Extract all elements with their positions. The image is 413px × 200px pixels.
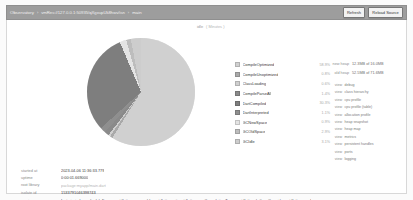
link-persistent-handles[interactable]: persistent handles (345, 142, 374, 146)
legend-swatch-icon (235, 91, 240, 96)
table-row: started at 2023-04-06 11:36:33.779 (21, 168, 411, 173)
link-cpu-profile[interactable]: cpu profile (345, 98, 362, 102)
link-key: view (329, 83, 342, 87)
observatory-isolate-page: Observatory › vmRes://127.0.0.1:50935/qX… (0, 0, 413, 200)
isolate-card: idle ( Minutes ) CompileOptimized 58.9% … (6, 20, 407, 194)
top-navbar: Observatory › vmRes://127.0.0.1:50935/qX… (6, 5, 407, 20)
link-allocation-profile[interactable]: allocation profile (345, 113, 371, 117)
link-metrics[interactable]: metrics (345, 135, 357, 139)
navbar-actions: Refresh Reload Source (343, 7, 403, 18)
legend-label: CompileParseAll (243, 91, 272, 96)
reload-source-button[interactable]: Reload Source (368, 7, 403, 18)
legend-swatch-icon (235, 101, 240, 106)
legend-item[interactable]: CompileUnoptimized 0.8% (235, 70, 330, 80)
legend-item[interactable]: GCNewSpace 0.9% (235, 118, 330, 128)
idle-summary: idle ( Minutes ) (197, 24, 224, 29)
chart-legend: CompileOptimized 58.9% CompileUnoptimize… (235, 60, 330, 146)
refresh-button[interactable]: Refresh (343, 7, 365, 18)
link-heap-snapshot[interactable]: heap snapshot (345, 120, 369, 124)
table-row: service [ext.ui.window.scheduleFrame, ex… (21, 198, 411, 200)
breadcrumb-item-main[interactable]: main (132, 10, 142, 15)
link-key: view (329, 157, 342, 161)
link-class-hierarchy[interactable]: class hierarchy (345, 90, 369, 94)
detail-value-started-at: 2023-04-06 11:36:33.779 (61, 168, 104, 173)
legend-label: DartCompiled (243, 101, 267, 106)
legend-swatch-icon (235, 81, 240, 86)
legend-swatch-icon (235, 110, 240, 115)
isolate-details-table: started at 2023-04-06 11:36:33.779 uptim… (21, 168, 411, 200)
idle-label: idle (197, 24, 203, 29)
link-ports[interactable]: ports (345, 150, 353, 154)
link-key: view (329, 142, 342, 146)
link-row[interactable]: view cpu profile (table) (329, 105, 413, 112)
stat-row: new heap 12.3MB of 16.0MB (329, 62, 413, 71)
link-row[interactable]: view class hierarchy (329, 90, 413, 97)
pie-chart[interactable] (87, 38, 195, 146)
legend-label: GCIdle (243, 139, 255, 144)
link-row[interactable]: view persistent handles (329, 142, 413, 149)
table-row: uptime 0:00:01.669000 (21, 175, 411, 180)
legend-item[interactable]: CompileOptimized 58.9% (235, 60, 330, 70)
link-key: view (329, 113, 342, 117)
legend-label: CompileUnoptimized (243, 72, 279, 77)
detail-value-uptime: 0:00:01.669000 (61, 175, 88, 180)
link-key: view (329, 98, 342, 102)
link-row[interactable]: view cpu profile (329, 98, 413, 105)
legend-swatch-icon (235, 120, 240, 125)
legend-swatch-icon (235, 129, 240, 134)
heap-stats: new heap 12.3MB of 16.0MB old heap 52.5M… (329, 62, 413, 80)
link-key: view (329, 120, 342, 124)
legend-item[interactable]: DartCompiled 30.3% (235, 98, 330, 108)
link-cpu-profile-table[interactable]: cpu profile (table) (345, 105, 373, 109)
link-logging[interactable]: logging (345, 157, 357, 161)
link-key: view (329, 105, 342, 109)
stat-value: 12.3MB of 16.0MB (352, 62, 383, 66)
link-key: view (329, 127, 342, 131)
legend-swatch-icon (235, 62, 240, 67)
stat-key: new heap (329, 62, 349, 66)
legend-swatch-icon (235, 139, 240, 144)
link-heap-map[interactable]: heap map (345, 127, 361, 131)
table-row: root library package:myapp/main.dart (21, 183, 411, 188)
isolate-links: view debug view class hierarchy view cpu… (329, 83, 413, 164)
stat-value: 52.5MB of 71.6MB (352, 71, 383, 75)
link-row[interactable]: view metrics (329, 135, 413, 142)
link-key: view (329, 90, 342, 94)
breadcrumb-item-observatory[interactable]: Observatory (10, 10, 34, 15)
detail-value-root-library[interactable]: package:myapp/main.dart (61, 183, 106, 188)
link-key: view (329, 135, 342, 139)
breadcrumb-separator-icon: › (37, 10, 38, 15)
legend-item[interactable]: CompileParseAll 1.4% (235, 89, 330, 99)
table-row: isolate id 1533791046398743 (21, 190, 411, 195)
link-key: view (329, 150, 342, 154)
legend-label: ClassLoading (243, 81, 267, 86)
tag-profile-chart[interactable] (75, 34, 205, 152)
legend-item[interactable]: GCIdle 3.1% (235, 137, 330, 147)
breadcrumb-item-vm[interactable]: vmRes://127.0.0.1:50935/qXgxupUk8hwv/isn (41, 10, 125, 15)
link-row[interactable]: view logging (329, 157, 413, 164)
link-row[interactable]: view debug (329, 83, 413, 90)
legend-item[interactable]: DartInterpreted 1.1% (235, 108, 330, 118)
detail-key-uptime: uptime (21, 175, 61, 180)
idle-value: ( Minutes ) (206, 24, 224, 29)
link-row[interactable]: view ports (329, 150, 413, 157)
link-row[interactable]: view heap map (329, 127, 413, 134)
breadcrumb: Observatory › vmRes://127.0.0.1:50935/qX… (10, 10, 343, 15)
stat-key: old heap (329, 71, 349, 75)
link-row[interactable]: view heap snapshot (329, 120, 413, 127)
link-debug[interactable]: debug (345, 83, 355, 87)
detail-value-service[interactable]: [ext.ui.window.scheduleFrame, ext.flutte… (61, 198, 311, 200)
detail-key-isolate-id: isolate id (21, 190, 61, 195)
detail-key-root-library: root library (21, 183, 61, 187)
legend-label: CompileOptimized (243, 62, 275, 67)
legend-label: GCOldSpace (243, 129, 266, 134)
breadcrumb-separator-icon-2: › (128, 10, 129, 15)
legend-item[interactable]: ClassLoading 0.6% (235, 79, 330, 89)
link-row[interactable]: view allocation profile (329, 113, 413, 120)
detail-key-started-at: started at (21, 168, 61, 173)
legend-label: DartInterpreted (243, 110, 269, 115)
legend-swatch-icon (235, 72, 240, 77)
legend-item[interactable]: GCOldSpace 2.9% (235, 127, 330, 137)
legend-label: GCNewSpace (243, 120, 268, 125)
stat-row: old heap 52.5MB of 71.6MB (329, 71, 413, 80)
